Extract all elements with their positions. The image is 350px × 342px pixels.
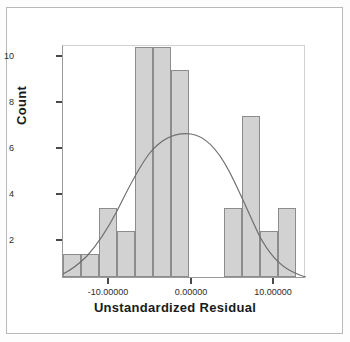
y-tick-label: 2 xyxy=(9,235,14,245)
histogram-bar xyxy=(242,116,260,277)
plot-area xyxy=(62,45,305,278)
histogram-bar xyxy=(117,231,135,277)
x-axis-title: Unstandardized Residual xyxy=(0,300,350,315)
histogram-bar xyxy=(153,47,171,277)
x-tick-mark xyxy=(272,278,274,284)
x-tick-label: 10.00000 xyxy=(254,287,292,297)
figure-root: 10 8 6 4 2 -10.00000 0.00000 10.00000 Un… xyxy=(0,0,350,342)
histogram-bar xyxy=(135,47,153,277)
x-tick-label: -10.00000 xyxy=(88,287,129,297)
histogram-bar xyxy=(260,231,278,277)
histogram-bar xyxy=(278,208,296,277)
y-tick-label: 6 xyxy=(9,143,14,153)
x-tick-mark xyxy=(190,278,192,284)
histogram-bar xyxy=(99,208,117,277)
y-tick-label: 10 xyxy=(4,51,14,61)
histogram-bar xyxy=(224,208,242,277)
histogram-bar xyxy=(63,254,81,277)
x-tick-label: 0.00000 xyxy=(175,287,208,297)
histogram-bar xyxy=(81,254,99,277)
y-tick-label: 4 xyxy=(9,189,14,199)
y-axis-title: Count xyxy=(14,86,29,125)
histogram-bar xyxy=(171,70,189,277)
x-tick-mark xyxy=(107,278,109,284)
y-axis: 10 8 6 4 2 xyxy=(0,0,62,342)
